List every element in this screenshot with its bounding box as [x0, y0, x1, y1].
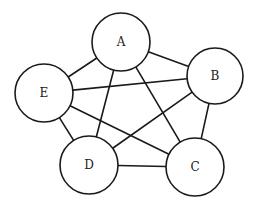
node-label: C — [190, 160, 199, 174]
node-label: B — [211, 69, 220, 83]
edge-a-d — [96, 70, 113, 137]
node-c: C — [166, 138, 224, 196]
node-label: D — [84, 158, 94, 172]
edge-b-d — [113, 92, 192, 148]
graph-diagram: ABCDE — [0, 0, 257, 208]
node-label: A — [116, 35, 126, 49]
edge-b-e — [73, 79, 187, 90]
node-d: D — [60, 136, 118, 194]
node-label: E — [40, 86, 49, 100]
node-a: A — [92, 13, 150, 71]
node-b: B — [187, 48, 243, 104]
edge-d-e — [59, 118, 73, 141]
edge-b-c — [201, 103, 209, 138]
edge-a-e — [68, 58, 97, 77]
node-e: E — [15, 64, 73, 122]
edge-a-b — [148, 52, 188, 67]
edge-c-d — [118, 166, 166, 167]
